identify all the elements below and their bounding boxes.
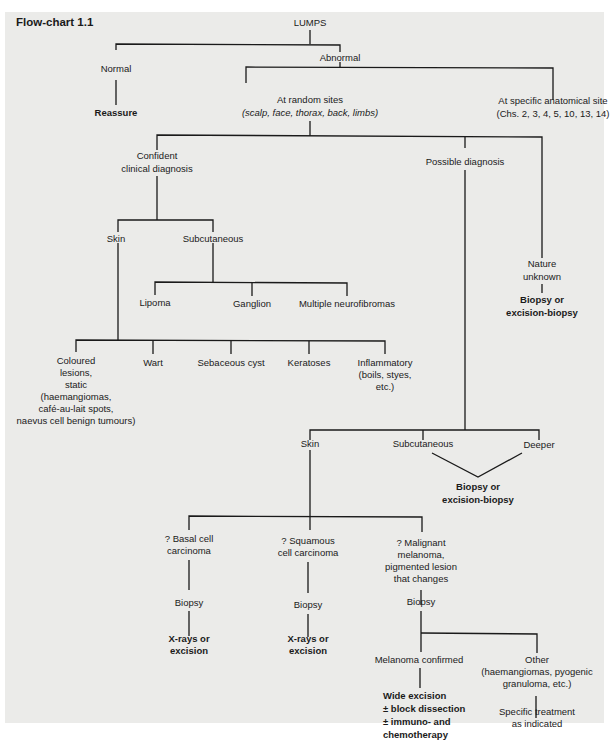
text-line: ± block dissection bbox=[383, 702, 465, 715]
node-pd-subcutaneous: Subcutaneous bbox=[393, 438, 454, 450]
node-malignant-melanoma: ? Malignant melanoma, pigmented lesion t… bbox=[385, 537, 457, 585]
node-nature-line1: Nature bbox=[528, 258, 557, 270]
node-subcutaneous: Subcutaneous bbox=[183, 233, 244, 245]
text-line: X-rays or bbox=[168, 633, 209, 645]
text-line: Inflammatory bbox=[358, 357, 413, 369]
text-line: Other bbox=[481, 654, 592, 666]
node-nature-action-line2: excision-biopsy bbox=[506, 307, 578, 319]
node-coloured-lesions: Coloured lesions, static (haemangiomas, … bbox=[17, 355, 136, 427]
text-line: carcinoma bbox=[165, 545, 214, 557]
node-keratoses: Keratoses bbox=[288, 357, 331, 369]
text-line: lesions, bbox=[17, 367, 136, 379]
text-line: ? Basal cell bbox=[165, 533, 214, 545]
node-basal-cell: ? Basal cell carcinoma bbox=[165, 533, 214, 557]
text-line: ? Malignant bbox=[385, 537, 457, 549]
node-confident-line2: clinical diagnosis bbox=[121, 163, 192, 175]
text-line: pigmented lesion bbox=[385, 561, 457, 573]
text-line: granuloma, etc.) bbox=[481, 678, 592, 690]
node-bcc-biopsy: Biopsy bbox=[175, 597, 204, 609]
node-melanoma-treatment: Wide excision ± block dissection ± immun… bbox=[383, 689, 465, 741]
node-pd-action-line1: Biopsy or bbox=[456, 481, 500, 493]
text-line: Coloured bbox=[17, 355, 136, 367]
node-ganglion: Ganglion bbox=[233, 298, 271, 310]
text-line: naevus cell benign tumours) bbox=[17, 415, 136, 427]
node-wart: Wart bbox=[143, 357, 163, 369]
node-neurofibromas: Multiple neurofibromas bbox=[299, 298, 395, 310]
node-nature-line2: unknown bbox=[523, 271, 561, 283]
node-sebaceous-cyst: Sebaceous cyst bbox=[197, 357, 264, 369]
text-line: static bbox=[17, 379, 136, 391]
text-line: ? Squamous bbox=[278, 535, 339, 547]
text-line: chemotherapy bbox=[383, 728, 465, 741]
text-line: that changes bbox=[385, 573, 457, 585]
node-squamous-cell: ? Squamous cell carcinoma bbox=[278, 535, 339, 559]
text-line: (haemangiomas, pyogenic bbox=[481, 666, 592, 678]
text-line: melanoma, bbox=[385, 549, 457, 561]
text-line: as indicated bbox=[499, 718, 575, 730]
node-pd-deeper: Deeper bbox=[523, 439, 554, 451]
text-line: etc.) bbox=[358, 381, 413, 393]
node-melanoma-biopsy: Biopsy bbox=[407, 596, 436, 608]
text-line: cell carcinoma bbox=[278, 547, 339, 559]
node-confident-line1: Confident bbox=[137, 150, 178, 162]
node-other: Other (haemangiomas, pyogenic granuloma,… bbox=[481, 654, 592, 690]
text-line: café-au-lait spots, bbox=[17, 403, 136, 415]
flowchart-title: Flow-chart 1.1 bbox=[16, 16, 93, 28]
node-lipoma: Lipoma bbox=[139, 297, 170, 309]
node-pd-action-line2: excision-biopsy bbox=[442, 494, 514, 506]
node-possible-diagnosis: Possible diagnosis bbox=[426, 156, 505, 168]
text-line: Specific treatment bbox=[499, 706, 575, 718]
node-bcc-action: X-rays or excision bbox=[168, 633, 209, 657]
text-line: ± immuno- and bbox=[383, 715, 465, 728]
node-reassure: Reassure bbox=[95, 107, 138, 119]
node-specific-site: At specific anatomical site bbox=[498, 95, 607, 107]
node-normal: Normal bbox=[101, 63, 132, 75]
text-line: excision bbox=[168, 645, 209, 657]
node-inflammatory: Inflammatory (boils, styes, etc.) bbox=[358, 357, 413, 393]
node-other-treatment: Specific treatment as indicated bbox=[499, 706, 575, 730]
text-line: Wide excision bbox=[383, 689, 465, 702]
node-melanoma-confirmed: Melanoma confirmed bbox=[375, 654, 464, 666]
node-nature-action-line1: Biopsy or bbox=[520, 294, 564, 306]
node-skin: Skin bbox=[107, 233, 125, 245]
node-lumps: LUMPS bbox=[294, 17, 327, 29]
node-specific-site-detail: (Chs. 2, 3, 4, 5, 10, 13, 14) bbox=[496, 108, 609, 120]
node-random-sites-detail: (scalp, face, thorax, back, limbs) bbox=[242, 107, 378, 119]
text-line: (boils, styes, bbox=[358, 369, 413, 381]
node-abnormal: Abnormal bbox=[320, 52, 361, 64]
text-line: (haemangiomas, bbox=[17, 391, 136, 403]
text-line: X-rays or bbox=[287, 633, 328, 645]
text-line: excision bbox=[287, 645, 328, 657]
node-scc-action: X-rays or excision bbox=[287, 633, 328, 657]
node-scc-biopsy: Biopsy bbox=[294, 599, 323, 611]
node-pd-skin: Skin bbox=[301, 438, 319, 450]
node-random-sites: At random sites bbox=[277, 94, 343, 106]
